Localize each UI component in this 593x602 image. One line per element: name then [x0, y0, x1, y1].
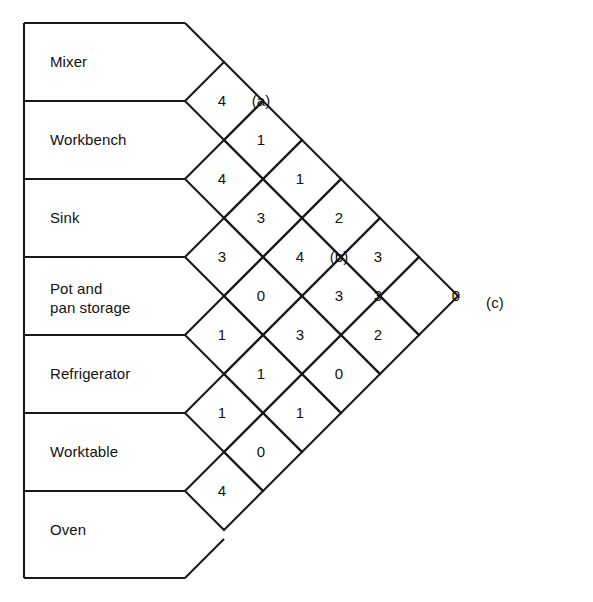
rel-cell-value: 4: [218, 482, 226, 499]
rel-cell-value: 1: [218, 404, 226, 421]
rel-cell-value: 3: [296, 326, 304, 343]
rel-cell-value: 1: [257, 365, 265, 382]
activity-label-workbench: Workbench: [50, 130, 127, 149]
activity-relationship-chart: Mixer Workbench Sink Pot and pan storage…: [0, 0, 593, 602]
rel-cell-value: 1: [218, 326, 226, 343]
rel-cell-value: 4: [296, 248, 304, 265]
rel-callout-label: (b): [330, 248, 349, 265]
rel-cell-value: 2: [335, 209, 343, 226]
rel-cell-value: 4: [218, 92, 226, 109]
rel-cell-value: 0: [257, 287, 265, 304]
rel-cell-value: 3: [218, 248, 226, 265]
activity-label-pot-and-pan-storage: Pot and pan storage: [50, 279, 130, 317]
activity-label-refrigerator: Refrigerator: [50, 364, 130, 383]
activity-label-oven: Oven: [50, 520, 86, 539]
activity-label-worktable: Worktable: [50, 442, 118, 461]
rel-callout-label: (c): [486, 294, 504, 311]
rel-cell-value: 1: [296, 404, 304, 421]
rel-cell-value: 3: [335, 287, 343, 304]
rel-cell-value: 2: [374, 326, 382, 343]
rel-cell-value: 3: [257, 209, 265, 226]
rel-cell-value: 1: [296, 170, 304, 187]
rel-callout-label: (a): [252, 92, 271, 109]
rel-cell-value: 0: [257, 443, 265, 460]
rel-cell-value: 3: [374, 248, 382, 265]
rel-cell-value: 0: [335, 365, 343, 382]
rel-cell-value: 3: [374, 287, 382, 304]
rel-cell-value: 0: [452, 287, 460, 304]
activity-label-sink: Sink: [50, 208, 80, 227]
rel-cell-value: 1: [257, 131, 265, 148]
rel-cell-value: 4: [218, 170, 226, 187]
activity-label-mixer: Mixer: [50, 52, 87, 71]
